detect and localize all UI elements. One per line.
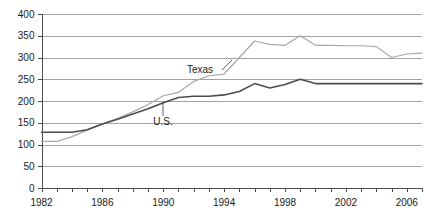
y-tick-label-300: 300 xyxy=(18,52,35,63)
y-tick-label-200: 200 xyxy=(18,96,35,107)
line-chart: 050100150200250300350400 198219861990199… xyxy=(0,0,433,224)
x-tick-label-1994: 1994 xyxy=(213,197,236,208)
y-tick-label-100: 100 xyxy=(18,139,35,150)
y-tick-label-250: 250 xyxy=(18,74,35,85)
y-tick-label-50: 50 xyxy=(23,161,35,172)
x-tick-label-1986: 1986 xyxy=(91,197,114,208)
x-tick-label-2002: 2002 xyxy=(335,197,358,208)
x-tick-label-1982: 1982 xyxy=(30,197,53,208)
texas-series-label: Texas xyxy=(187,64,213,75)
x-tick-label-2006: 2006 xyxy=(396,197,419,208)
x-tick-label-1998: 1998 xyxy=(274,197,297,208)
chart-canvas: 050100150200250300350400 198219861990199… xyxy=(0,0,433,224)
y-tick-label-0: 0 xyxy=(29,183,35,194)
x-tick-label-1990: 1990 xyxy=(152,197,175,208)
y-tick-label-150: 150 xyxy=(18,117,35,128)
us-series-label: U.S. xyxy=(153,116,172,127)
y-tick-label-400: 400 xyxy=(18,9,35,20)
y-tick-label-350: 350 xyxy=(18,30,35,41)
chart-background xyxy=(0,0,433,224)
